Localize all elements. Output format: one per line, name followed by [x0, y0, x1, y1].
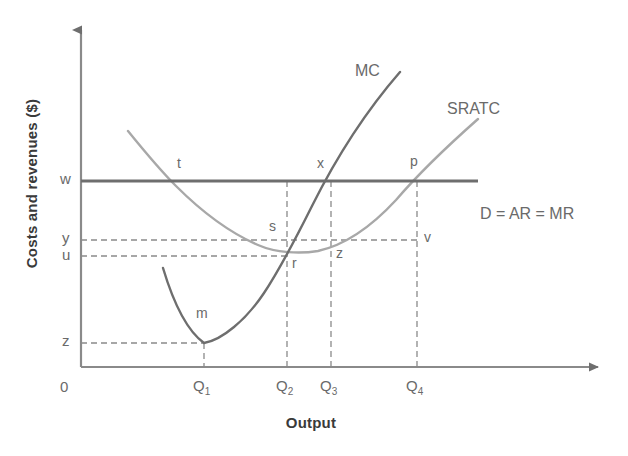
point-label-r: r: [292, 255, 297, 271]
x-tick-q4: Q4: [406, 377, 423, 397]
plot-canvas: [0, 0, 628, 456]
y-tick-y: y: [62, 229, 70, 246]
mc-curve-label: MC: [355, 62, 380, 80]
x-tick-q2-sub: 2: [288, 386, 294, 397]
x-tick-q4-sub: 4: [418, 386, 424, 397]
demand-curve-label: D = AR = MR: [480, 205, 574, 223]
point-label-s: s: [269, 218, 276, 234]
x-tick-q4-letter: Q: [406, 377, 418, 394]
point-label-m: m: [196, 305, 208, 321]
x-tick-q3-letter: Q: [320, 377, 332, 394]
point-label-t: t: [177, 155, 181, 171]
y-tick-u: u: [62, 246, 70, 263]
y-axis-title: Costs and revenues ($): [23, 69, 40, 299]
cost-revenue-diagram: Costs and revenues ($) Output 0 w y u z …: [0, 0, 628, 456]
point-label-z: z: [336, 245, 343, 261]
y-tick-z: z: [62, 332, 70, 349]
x-axis-title: Output: [236, 414, 386, 431]
point-label-x: x: [317, 155, 324, 171]
x-tick-q3: Q3: [320, 377, 337, 397]
sratc-curve-label: SRATC: [447, 100, 500, 118]
x-tick-q3-sub: 3: [332, 386, 338, 397]
origin-label: 0: [60, 378, 68, 395]
x-tick-q2: Q2: [276, 377, 293, 397]
x-tick-q1-letter: Q: [193, 377, 205, 394]
y-tick-w: w: [60, 170, 71, 187]
point-label-v: v: [424, 229, 431, 245]
x-tick-q1-sub: 1: [205, 386, 211, 397]
x-tick-q2-letter: Q: [276, 377, 288, 394]
x-tick-q1: Q1: [193, 377, 210, 397]
point-label-p: p: [410, 153, 418, 169]
